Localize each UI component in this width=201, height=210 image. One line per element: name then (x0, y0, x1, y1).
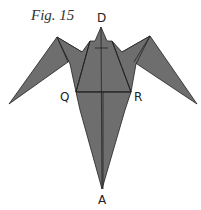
label-d: D (97, 11, 106, 25)
body-lower (76, 92, 131, 189)
label-a: A (98, 193, 106, 207)
label-q: Q (60, 90, 69, 104)
origami-diagram (0, 0, 201, 210)
label-r: R (134, 90, 142, 104)
